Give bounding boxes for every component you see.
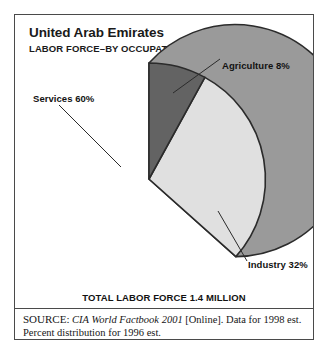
pie-chart: Agriculture 8% Services 60% Industry 32% xyxy=(15,15,313,305)
source-work-title: CIA World Factbook 2001 xyxy=(72,314,183,325)
slice-label-services: Services 60% xyxy=(33,93,94,104)
slice-label-agriculture: Agriculture 8% xyxy=(222,60,290,71)
leader-line-services xyxy=(59,105,121,167)
source-divider xyxy=(15,308,313,309)
slice-label-industry: Industry 32% xyxy=(248,259,308,270)
total-labor-force-caption: TOTAL LABOR FORCE 1.4 MILLION xyxy=(15,292,313,303)
source-note: SOURCE: CIA World Factbook 2001 [Online]… xyxy=(23,313,305,339)
source-label: SOURCE: xyxy=(23,313,69,325)
figure-frame: United Arab Emirates LABOR FORCE–BY OCCU… xyxy=(14,14,314,340)
